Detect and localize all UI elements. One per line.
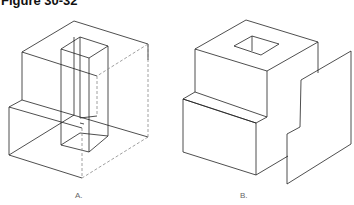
figure-a-drawing: [0, 0, 354, 205]
figure-b-label: B.: [240, 191, 248, 200]
figure-a-label: A.: [75, 191, 83, 200]
figure-b-drawing: [183, 20, 351, 184]
